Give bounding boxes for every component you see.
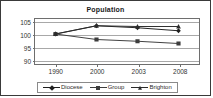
x-tick-label: 2003 (132, 68, 146, 76)
triangle-marker-icon (138, 85, 142, 89)
legend-marker-diamond-icon (43, 84, 60, 91)
x-tick-mark (97, 64, 98, 67)
x-tick-label: 1990 (49, 68, 63, 76)
legend-marker-square-icon (90, 84, 107, 91)
legend-item-group[interactable]: Group (90, 84, 125, 91)
legend-marker-triangle-icon (131, 84, 148, 91)
chart-legend: DioceseGroupBrighton (37, 82, 178, 93)
legend-item-brighton[interactable]: Brighton (131, 84, 171, 91)
diamond-marker-icon (49, 85, 55, 91)
y-tick-label: 95 (24, 44, 31, 51)
data-point-diocese (176, 28, 181, 33)
x-tick-mark (56, 64, 57, 67)
chart-container: Population 9095100105 1990200020032008 D… (0, 0, 211, 96)
plot-area: 9095100105 1990200020032008 (34, 18, 200, 65)
legend-label: Brighton (149, 84, 171, 91)
y-tick-label: 105 (20, 18, 31, 25)
x-tick-mark (139, 64, 140, 67)
y-tick-label: 100 (20, 31, 31, 38)
series-line-group (56, 34, 179, 44)
data-point-group (135, 39, 139, 43)
x-tick-label: 2000 (90, 68, 104, 76)
square-marker-icon (96, 86, 100, 90)
y-tick-label: 90 (24, 57, 31, 64)
x-tick-label: 2008 (173, 68, 187, 76)
x-tick-mark (180, 64, 181, 67)
legend-item-diocese[interactable]: Diocese (43, 84, 83, 91)
chart-title: Population (1, 6, 210, 14)
legend-label: Diocese (61, 84, 83, 91)
data-point-group (94, 37, 98, 41)
legend-label: Group (108, 84, 125, 91)
series-layer (35, 19, 199, 64)
data-point-group (176, 41, 180, 45)
